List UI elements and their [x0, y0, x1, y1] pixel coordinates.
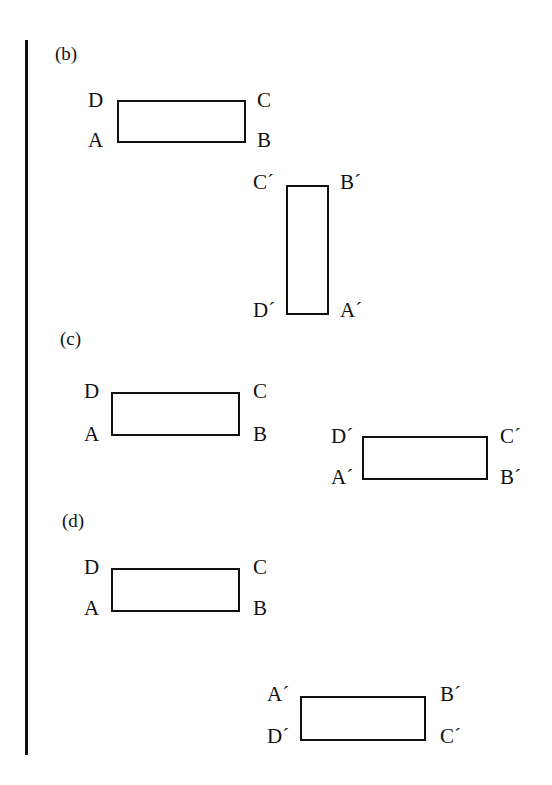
- section-label-d: (d): [62, 510, 84, 532]
- vertex-label: B´: [500, 467, 521, 488]
- vertex-label: D: [84, 557, 99, 578]
- rectangle-d-original: [111, 568, 240, 612]
- vertex-label: B: [253, 424, 267, 445]
- vertex-label: C: [253, 557, 267, 578]
- vertex-label: C: [257, 90, 271, 111]
- vertex-label: C: [253, 381, 267, 402]
- vertex-label: A´: [331, 467, 353, 488]
- vertex-label: A: [88, 130, 103, 151]
- vertex-label: A´: [340, 300, 362, 321]
- vertex-label: D´: [331, 426, 353, 447]
- vertex-label: B´: [440, 684, 461, 705]
- rectangle-c-reflected: [362, 436, 488, 480]
- vertex-label: C´: [440, 726, 461, 747]
- vertex-label: C´: [500, 426, 521, 447]
- left-margin-rule: [25, 40, 28, 755]
- vertex-label: B: [253, 598, 267, 619]
- vertex-label: D: [84, 381, 99, 402]
- vertex-label: D´: [253, 300, 275, 321]
- vertex-label: A: [84, 424, 99, 445]
- rectangle-b-original: [117, 100, 246, 143]
- vertex-label: D: [88, 90, 103, 111]
- rectangle-c-original: [111, 392, 240, 436]
- section-label-b: (b): [55, 43, 77, 65]
- vertex-label: A: [84, 598, 99, 619]
- vertex-label: C´: [253, 172, 274, 193]
- vertex-label: B: [257, 130, 271, 151]
- section-label-c: (c): [60, 328, 81, 350]
- vertex-label: B´: [340, 172, 361, 193]
- vertex-label: D´: [267, 726, 289, 747]
- vertex-label: A´: [267, 684, 289, 705]
- rectangle-d-reflected: [300, 696, 426, 741]
- rectangle-b-rotated: [286, 185, 329, 315]
